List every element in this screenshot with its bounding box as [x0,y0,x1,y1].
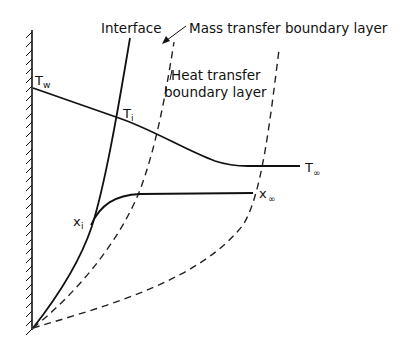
svg-text:x: x [259,186,267,201]
boundary-layer-diagram: Interface Mass transfer boundary layer H… [0,0,417,354]
x-infinity-label: x ∞ [259,186,276,204]
heat-transfer-label-line2: boundary layer [164,84,267,100]
heat-transfer-label-line1: Heat transfer [171,67,261,83]
svg-text:T: T [122,106,131,121]
t-infinity-label: T ∞ [304,160,321,178]
mass-transfer-label: Mass transfer boundary layer [189,20,388,36]
mass-transfer-arrow [162,26,186,44]
svg-text:T: T [304,160,313,175]
svg-text:i: i [131,113,134,123]
x-interface-label: x i [73,214,84,231]
t-wall-label: T w [34,73,50,90]
svg-text:w: w [43,80,50,90]
wall [26,30,32,335]
concentration-profile [91,193,253,225]
svg-text:i: i [81,221,84,231]
wall-hatching [26,32,32,335]
svg-text:∞: ∞ [313,168,321,178]
svg-text:x: x [73,214,81,229]
svg-text:∞: ∞ [268,194,276,204]
interface-label: Interface [101,20,161,36]
t-interface-label: T i [122,106,134,123]
svg-text:T: T [34,73,43,88]
